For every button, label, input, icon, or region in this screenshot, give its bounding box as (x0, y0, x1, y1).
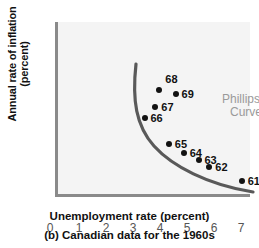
data-point-label-68: 68 (165, 73, 177, 85)
plot-area: 7 6 5 4 3 2 1 0 1 2 3 4 5 6 7 6869676665… (55, 22, 250, 197)
annotation-line1: Phillips (222, 92, 259, 106)
y-axis-title: Annual rate of inflation (percent) (6, 0, 30, 144)
data-point-label-61: 61 (248, 175, 259, 187)
data-point-label-66: 66 (151, 112, 163, 124)
y-axis-title-line2: (percent) (18, 0, 30, 144)
data-point-64 (181, 150, 187, 156)
data-point-66 (142, 115, 148, 121)
annotation-line2: Curve (222, 106, 259, 119)
y-axis-title-line1: Annual rate of inflation (6, 7, 18, 122)
data-point-label-67: 67 (161, 101, 173, 113)
data-point-69 (173, 91, 179, 97)
data-point-61 (239, 178, 245, 184)
data-point-63 (196, 157, 202, 163)
phillips-curve-figure: Annual rate of inflation (percent) 7 6 5… (0, 0, 259, 248)
phillips-curve-annotation: Phillips Curve (222, 93, 259, 119)
figure-caption: (b) Canadian data for the 1960s (0, 229, 259, 241)
plot-inner: 7 6 5 4 3 2 1 0 1 2 3 4 5 6 7 6869676665… (58, 22, 250, 194)
x-axis-title: Unemployment rate (percent) (0, 210, 259, 222)
data-point-label-62: 62 (215, 161, 227, 173)
data-point-label-69: 69 (182, 88, 194, 100)
data-point-label-65: 65 (175, 138, 187, 150)
